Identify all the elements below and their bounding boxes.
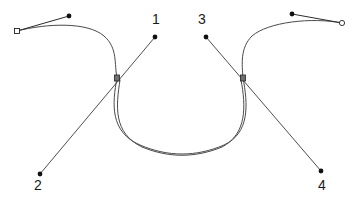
left-outer-curve <box>17 25 117 78</box>
curve-diagram-svg <box>0 0 359 202</box>
point-2-dot-marker[interactable] <box>38 172 43 177</box>
point-label-2: 2 <box>34 178 42 192</box>
handle-line-3-to-4 <box>206 37 321 171</box>
right-endpoint-hollow-marker[interactable] <box>339 20 344 25</box>
point-label-4: 4 <box>318 178 326 192</box>
right-junction-square-marker[interactable] <box>241 75 246 81</box>
left-handle-dot-marker[interactable] <box>67 14 72 19</box>
figure-canvas: 1 2 3 4 <box>0 0 359 202</box>
right-handle-dot-marker[interactable] <box>290 12 295 17</box>
right-outer-curve <box>242 21 342 78</box>
inner-bowl-shadow-curve <box>117 80 243 155</box>
left-junction-square-marker[interactable] <box>115 75 120 81</box>
left-endpoint-hollow-marker[interactable] <box>15 29 20 34</box>
left-tangent-handle <box>17 16 69 31</box>
point-4-dot-marker[interactable] <box>319 169 324 174</box>
right-tangent-handle <box>292 14 342 23</box>
point-1-dot-marker[interactable] <box>153 35 158 40</box>
handle-line-1-to-2 <box>40 37 155 174</box>
point-label-3: 3 <box>198 12 206 26</box>
point-label-1: 1 <box>152 12 160 26</box>
point-3-dot-marker[interactable] <box>204 35 209 40</box>
